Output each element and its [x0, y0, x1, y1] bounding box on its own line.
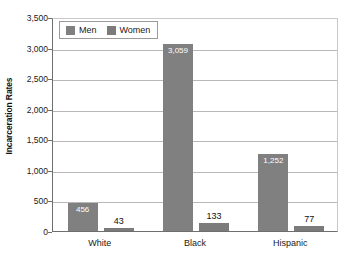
y-axis-title: Incarceration Rates	[0, 0, 16, 232]
chart-legend: MenWomen	[59, 21, 158, 39]
legend-entry-men: Men	[66, 25, 97, 35]
bar-value-label: 1,252	[258, 156, 288, 165]
bar-value-label: 133	[199, 211, 229, 221]
x-axis-label-black: Black	[184, 238, 206, 248]
gridline	[53, 111, 337, 112]
bar-value-label: 456	[68, 205, 98, 214]
bar-chart: Incarceration Rates 05001,0001,5002,0002…	[0, 0, 350, 260]
gridline	[53, 172, 337, 173]
y-axis-tick-mark	[48, 232, 52, 233]
x-axis-label-hispanic: Hispanic	[273, 238, 308, 248]
bar-value-label: 3,059	[163, 46, 193, 55]
gridline	[53, 80, 337, 81]
bar-hispanic-men: 1,252	[258, 154, 288, 231]
gridline	[53, 50, 337, 51]
legend-swatch-icon	[66, 26, 75, 35]
legend-entry-women: Women	[107, 25, 151, 35]
bar-hispanic-women	[294, 226, 324, 231]
bar-value-label: 43	[104, 216, 134, 226]
legend-label: Women	[120, 25, 151, 35]
gridline	[53, 141, 337, 142]
plot-area: 456433,0591331,25277	[52, 18, 338, 232]
bar-value-label: 77	[294, 214, 324, 224]
y-axis-title-text: Incarceration Rates	[3, 78, 13, 155]
legend-swatch-icon	[107, 26, 116, 35]
bar-white-men: 456	[68, 203, 98, 231]
bar-black-women	[199, 223, 229, 231]
legend-label: Men	[79, 25, 97, 35]
bar-white-women	[104, 228, 134, 231]
bar-black-men: 3,059	[163, 44, 193, 231]
x-axis-label-white: White	[88, 238, 111, 248]
